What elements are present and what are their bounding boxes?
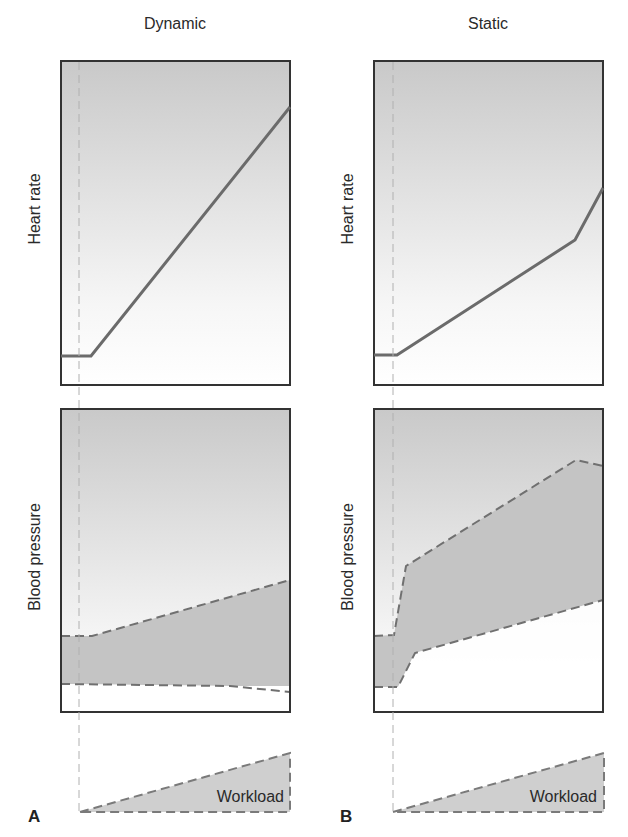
workload-wedge-a: Workload <box>80 753 290 812</box>
panel-b-heart-rate <box>374 61 603 385</box>
workload-label-b: Workload <box>530 788 597 805</box>
panel-a-heart-rate <box>61 61 290 385</box>
panel-letter-a: A <box>28 807 40 827</box>
diagram-canvas: Workload Workload <box>0 0 628 837</box>
panel-a-blood-pressure <box>61 409 290 712</box>
workload-wedge-b: Workload <box>393 753 604 812</box>
workload-label-a: Workload <box>217 788 284 805</box>
panel-b-blood-pressure <box>374 409 603 712</box>
panel-letter-b: B <box>340 807 352 827</box>
